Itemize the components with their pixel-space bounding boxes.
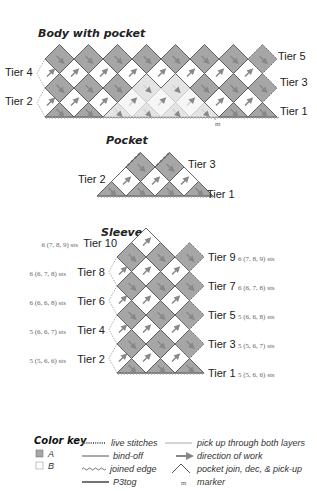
legend-p3tog: P3tog xyxy=(113,477,137,487)
sleeve-sts-count: 5 (5, 6, 6) sts xyxy=(29,357,66,365)
sleeve-tier-label: Tier 8 xyxy=(77,266,105,278)
direction-arrow-icon xyxy=(119,269,125,275)
pocket-tier2-label: Tier 2 xyxy=(78,173,106,185)
sleeve-sts-count: 6 (6, 7, 8) sts xyxy=(238,284,275,292)
sleeve-tier-label: Tier 7 xyxy=(208,280,236,292)
body-tier4-label: Tier 4 xyxy=(5,66,33,78)
body-chart xyxy=(37,45,279,121)
pocket-tier3-label: Tier 3 xyxy=(188,158,216,170)
live-stitches-edge xyxy=(37,88,45,117)
direction-arrow-icon xyxy=(119,356,125,362)
sleeve-tier-label: Tier 2 xyxy=(77,353,105,365)
live-stitches-edge xyxy=(109,286,117,315)
direction-arrow-icon xyxy=(47,71,53,77)
legend-joined-edge: joined edge xyxy=(109,464,157,474)
sleeve-tier-label: Tier 10 xyxy=(83,237,117,249)
sleeve-chart xyxy=(109,228,204,374)
entrelac-diagram: Body with pocket Tier 5 Tier 3 Tier 1 Ti… xyxy=(0,0,317,491)
sleeve-sts-count: 5 (6, 6, 8) sts xyxy=(238,313,275,321)
marker-icon: m xyxy=(181,479,187,487)
sleeve-tier-label: Tier 5 xyxy=(208,309,236,321)
legend-live-stitches: live stitches xyxy=(111,438,158,448)
legend-title: Color key xyxy=(34,435,87,446)
body-marker: m xyxy=(215,120,221,128)
live-stitches-edge xyxy=(109,344,117,373)
sleeve-sts-count: 6 (7, 8, 9) sts xyxy=(41,241,78,249)
swatch-a-icon xyxy=(36,450,43,457)
wavy-line-icon xyxy=(82,468,106,470)
pocket-title: Pocket xyxy=(106,134,149,147)
sleeve-tier-label: Tier 6 xyxy=(77,295,105,307)
swatch-b-icon xyxy=(36,462,43,469)
sleeve-sts-count: 6 (7, 8, 9) sts xyxy=(238,255,275,263)
sleeve-tier-label: Tier 3 xyxy=(208,338,236,350)
direction-arrow-icon xyxy=(119,327,125,333)
legend-bind-off: bind-off xyxy=(113,451,145,461)
sleeve-sts-count: 6 (6, 7, 8) sts xyxy=(29,270,66,278)
sleeve-tier-label: Tier 4 xyxy=(77,324,105,336)
legend-marker: marker xyxy=(197,477,226,487)
direction-arrow-icon xyxy=(47,100,53,106)
body-tier3-label: Tier 3 xyxy=(280,76,308,88)
legend-pocket-join: pocket join, dec, & pick-up xyxy=(196,464,302,474)
sleeve-tier-label: Tier 9 xyxy=(208,251,236,263)
direction-arrow-icon xyxy=(119,298,125,304)
pocket-tier1-label: Tier 1 xyxy=(207,188,235,200)
sleeve-sts-count: 5 (5, 6, 6) sts xyxy=(238,371,275,379)
live-stitches-edge xyxy=(109,257,117,286)
sleeve-sts-count: 5 (5, 6, 7) sts xyxy=(238,342,275,350)
live-stitches-edge xyxy=(37,59,45,88)
legend: Color key A B live stitches bind-off joi… xyxy=(34,435,306,487)
body-tier1-label: Tier 1 xyxy=(280,105,308,117)
body-title: Body with pocket xyxy=(38,27,146,40)
legend-pick-up: pick up through both layers xyxy=(196,438,306,448)
sleeve-sts-count: 6 (6, 6, 8) sts xyxy=(29,299,66,307)
legend-color-b: B xyxy=(48,461,54,471)
sleeve-sts-count: 5 (6, 6, 7) sts xyxy=(29,328,66,336)
legend-color-a: A xyxy=(47,449,54,459)
body-tier5-label: Tier 5 xyxy=(278,50,306,62)
body-tier2-label: Tier 2 xyxy=(5,95,33,107)
legend-direction: direction of work xyxy=(197,451,263,461)
live-stitches-edge xyxy=(109,315,117,344)
chevron-up-icon xyxy=(172,464,190,473)
sleeve-tier-label: Tier 1 xyxy=(208,367,236,379)
